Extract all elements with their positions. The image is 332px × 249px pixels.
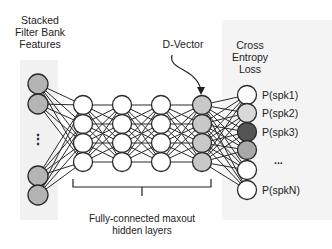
hidden-label-line-1: Fully-connected maxout xyxy=(89,213,195,224)
output-label: P(spk1) xyxy=(262,89,298,101)
hidden-node xyxy=(74,134,93,153)
output-node xyxy=(238,141,257,160)
input-node xyxy=(28,94,48,114)
output-title-line-3: Loss xyxy=(239,63,261,75)
input-title-line-1: Stacked xyxy=(21,14,59,26)
dvector-arrowhead xyxy=(197,87,205,95)
hidden-node xyxy=(113,134,132,153)
output-label: P(spkN) xyxy=(262,184,300,196)
output-node xyxy=(238,86,257,105)
input-node xyxy=(28,166,48,186)
output-node xyxy=(238,181,257,200)
output-labels: P(spk1)P(spk2)P(spk3)...P(spkN) xyxy=(262,89,300,196)
input-title-line-3: Features xyxy=(19,38,60,50)
output-title-line-1: Cross xyxy=(236,39,263,51)
hidden-node xyxy=(74,96,93,115)
output-ellipsis: ... xyxy=(274,154,283,166)
hidden-node xyxy=(152,134,171,153)
dvector-label: D-Vector xyxy=(163,38,204,50)
hidden-layers-brace xyxy=(73,179,211,196)
hidden-node xyxy=(74,115,93,134)
output-node xyxy=(238,123,257,142)
dvector-node xyxy=(193,115,212,134)
hidden-node xyxy=(152,153,171,172)
output-label: P(spk2) xyxy=(262,107,298,119)
hidden-node xyxy=(113,153,132,172)
dvector-node xyxy=(193,153,212,172)
dvector-node xyxy=(193,134,212,153)
output-node xyxy=(238,161,257,180)
output-label: P(spk3) xyxy=(262,126,298,138)
hidden-node xyxy=(113,96,132,115)
dvector-node xyxy=(193,96,212,115)
input-ellipsis: ⋮ xyxy=(31,131,45,147)
hidden-node xyxy=(152,96,171,115)
output-title-line-2: Entropy xyxy=(232,51,269,63)
hidden-node xyxy=(113,115,132,134)
output-node xyxy=(238,104,257,123)
input-node xyxy=(28,74,48,94)
hidden-node xyxy=(152,115,171,134)
hidden-label-line-2: hidden layers xyxy=(112,225,171,236)
hidden-node xyxy=(74,153,93,172)
input-node xyxy=(28,185,48,205)
dvector-arrow xyxy=(172,55,201,90)
connections xyxy=(38,84,247,195)
dnn-diagram: Stacked Filter Bank Features Cross Entro… xyxy=(0,0,332,249)
input-title-line-2: Filter Bank xyxy=(15,26,66,38)
